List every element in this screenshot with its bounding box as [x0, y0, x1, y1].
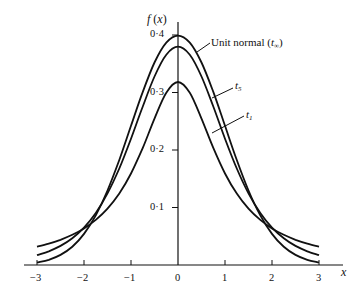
y-tick-label: 0·1	[150, 202, 164, 213]
y-axis-label-x: (x)	[153, 12, 166, 26]
x-tick-label: 2	[269, 273, 274, 284]
legend-t5: t5	[235, 80, 242, 93]
y-tick-label: 0·2	[150, 144, 164, 155]
chart-svg	[0, 0, 362, 293]
axes	[24, 22, 343, 265]
legend-unit-normal: Unit normal (t∞)	[211, 37, 283, 50]
legend-t1: t1	[246, 109, 253, 122]
y-axis-label-f: f	[147, 12, 150, 26]
y-axis-label: f (x)	[147, 13, 167, 25]
x-tick-label: 1	[222, 273, 227, 284]
arrow-unit-normal	[197, 43, 210, 52]
x-tick-label: −1	[124, 273, 135, 284]
x-tick-label: 3	[316, 273, 321, 284]
arrow-t5	[212, 88, 233, 98]
y-tick-label: 0·4	[150, 29, 164, 40]
y-tick-label: 0·3	[150, 87, 164, 98]
x-axis-label: x	[341, 266, 346, 278]
x-tick-label: −3	[30, 273, 41, 284]
x-tick-label: −2	[77, 273, 88, 284]
x-tick-label: 0	[175, 273, 180, 284]
